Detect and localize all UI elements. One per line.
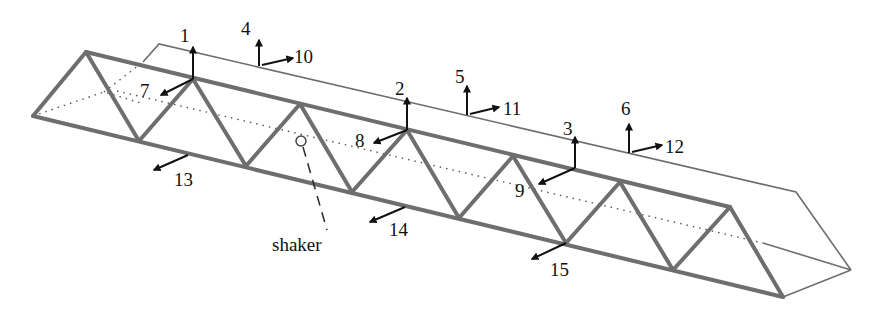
measurement-arrows bbox=[154, 40, 662, 259]
label-5: 5 bbox=[455, 66, 465, 87]
shaker-label: shaker bbox=[272, 234, 322, 255]
label-15: 15 bbox=[550, 259, 569, 280]
label-7: 7 bbox=[140, 80, 150, 101]
truss-diagram: shaker 1 4 10 7 2 5 11 8 3 6 12 9 13 14 … bbox=[0, 0, 877, 316]
label-10: 10 bbox=[294, 46, 313, 67]
label-11: 11 bbox=[503, 98, 521, 119]
label-6: 6 bbox=[621, 98, 631, 119]
label-8: 8 bbox=[355, 130, 365, 151]
label-12: 12 bbox=[665, 136, 684, 157]
label-1: 1 bbox=[180, 25, 190, 46]
label-14: 14 bbox=[389, 219, 409, 240]
label-13: 13 bbox=[174, 169, 193, 190]
label-2: 2 bbox=[395, 78, 405, 99]
label-3: 3 bbox=[563, 118, 573, 139]
label-4: 4 bbox=[241, 18, 251, 39]
back-plane bbox=[143, 44, 851, 297]
label-9: 9 bbox=[515, 180, 525, 201]
